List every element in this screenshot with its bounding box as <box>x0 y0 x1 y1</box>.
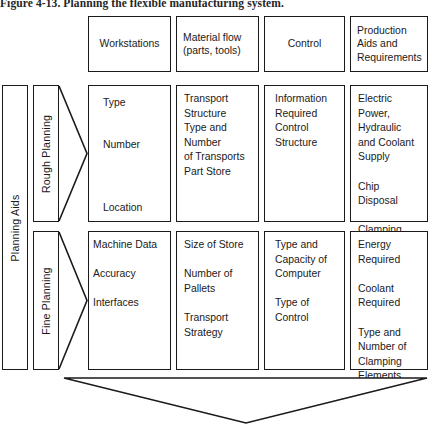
cell-rough-material-flow: Transport Structure Type and Number of T… <box>176 85 259 222</box>
row-label-fine-planning: Fine Planning <box>33 231 59 370</box>
cell-fine-production-aids-text: Energy Required Coolant Required Type an… <box>358 238 420 384</box>
cell-rough-workstations: Type Number Location <box>88 85 171 222</box>
row-label-rough-planning: Rough Planning <box>33 85 59 222</box>
column-header-production-aids-text: Production Aids and Requirements <box>357 24 422 64</box>
figure-caption: Figure 4-13. Planning the flexible manuf… <box>0 0 430 11</box>
row-label-fine-planning-text: Fine Planning <box>40 267 52 334</box>
column-header-workstations: Workstations <box>88 16 171 72</box>
column-header-material-flow: Material flow (parts, tools) <box>176 16 259 72</box>
cell-rough-workstations-text: Type Number Location <box>103 92 163 218</box>
column-header-control-text: Control <box>271 37 338 50</box>
cell-rough-production-aids-text: Electric Power, Hydraulic and Coolant Su… <box>358 92 420 238</box>
column-header-control: Control <box>264 16 345 72</box>
column-header-workstations-text: Workstations <box>95 37 164 50</box>
planning-aids-label: Planning Aids <box>9 194 21 261</box>
cell-fine-control-text: Type and Capacity of Computer Type of Co… <box>275 238 337 326</box>
planning-aids-label-box: Planning Aids <box>2 85 28 370</box>
column-header-production-aids: Production Aids and Requirements <box>350 16 428 72</box>
fine-planning-arrow-icon <box>58 231 88 370</box>
cell-fine-material-flow-text: Size of Store Number of Pallets Transpor… <box>184 238 251 340</box>
rough-planning-arrow-icon <box>58 85 88 222</box>
bottom-summary-arrow-icon <box>63 377 428 425</box>
cell-fine-control: Type and Capacity of Computer Type of Co… <box>264 231 345 370</box>
column-header-material-flow-text: Material flow (parts, tools) <box>183 31 241 58</box>
cell-rough-control: Information Required Control Structure <box>264 85 345 222</box>
row-label-rough-planning-text: Rough Planning <box>40 114 52 192</box>
cell-rough-control-text: Information Required Control Structure <box>275 92 337 150</box>
cell-fine-workstations: Machine Data Accuracy Interfaces <box>88 231 171 370</box>
cell-fine-material-flow: Size of Store Number of Pallets Transpor… <box>176 231 259 370</box>
cell-rough-production-aids: Electric Power, Hydraulic and Coolant Su… <box>350 85 428 222</box>
cell-rough-material-flow-text: Transport Structure Type and Number of T… <box>184 92 251 180</box>
cell-fine-workstations-text: Machine Data Accuracy Interfaces <box>93 238 163 311</box>
cell-fine-production-aids: Energy Required Coolant Required Type an… <box>350 231 428 370</box>
